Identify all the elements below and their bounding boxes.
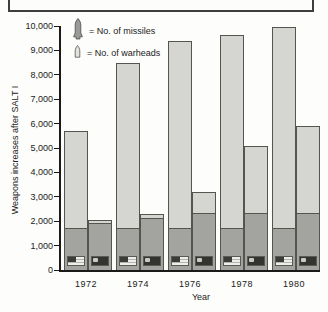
- y-tick-label: 10,000: [5, 21, 53, 31]
- bar-ussr-1974: [140, 214, 164, 270]
- bar-ussr-1972: [88, 220, 112, 270]
- bar-ussr-1976: [192, 192, 216, 270]
- y-tick-label: 2,000: [5, 216, 53, 226]
- plot-area: 10,0009,0008,0007,0006,0005,0004,0003,00…: [59, 26, 320, 272]
- figure: Weapons increases after SALT I = No. of …: [0, 0, 328, 312]
- y-tick-label: 4,000: [5, 167, 53, 177]
- bar-ussr-1980: [296, 126, 320, 270]
- y-tick-mark: [54, 148, 60, 149]
- us-flag-icon: [67, 256, 85, 266]
- y-tick-mark: [54, 221, 60, 222]
- y-tick-label: 8,000: [5, 70, 53, 80]
- x-tick-label-1976: 1976: [179, 279, 201, 289]
- x-tick-label-1972: 1972: [75, 279, 97, 289]
- x-tick-label-1978: 1978: [231, 279, 253, 289]
- y-tick-label: 5,000: [5, 143, 53, 153]
- bar-us-1978: [220, 35, 244, 270]
- y-tick-label: 3,000: [5, 192, 53, 202]
- ussr-flag-icon: [247, 256, 265, 266]
- us-flag-icon: [119, 256, 137, 266]
- x-tick-label-1974: 1974: [127, 279, 149, 289]
- y-tick-label: 1,000: [5, 241, 53, 251]
- bar-us-1974: [116, 63, 140, 270]
- us-flag-icon: [275, 256, 293, 266]
- y-tick-mark: [54, 50, 60, 51]
- x-axis-label: Year: [192, 292, 210, 302]
- y-tick-mark: [54, 245, 60, 246]
- x-tick-label-1980: 1980: [283, 279, 305, 289]
- us-flag-icon: [223, 256, 241, 266]
- y-tick-label: 9,000: [5, 45, 53, 55]
- y-tick-label: 7,000: [5, 94, 53, 104]
- ussr-flag-icon: [299, 256, 317, 266]
- y-tick-mark: [54, 172, 60, 173]
- caption-box: [8, 0, 314, 12]
- y-tick-mark: [54, 26, 60, 27]
- y-tick-label: 0: [5, 265, 53, 275]
- y-tick-mark: [54, 123, 60, 124]
- bar-ussr-1978: [244, 146, 268, 270]
- y-tick-mark: [54, 270, 60, 271]
- y-tick-mark: [54, 196, 60, 197]
- bar-us-1976: [168, 41, 192, 270]
- ussr-flag-icon: [143, 256, 161, 266]
- y-tick-label: 6,000: [5, 119, 53, 129]
- ussr-flag-icon: [195, 256, 213, 266]
- y-tick-mark: [54, 99, 60, 100]
- bar-us-1972: [64, 131, 88, 270]
- us-flag-icon: [171, 256, 189, 266]
- ussr-flag-icon: [91, 256, 109, 266]
- y-tick-mark: [54, 74, 60, 75]
- bar-us-1980: [272, 27, 296, 270]
